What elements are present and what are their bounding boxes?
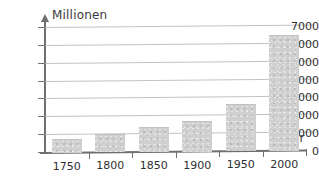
bar-1850 [139, 127, 169, 152]
x-axis-tick-mark [306, 149, 307, 156]
plot-area: Millionen Jahr 0100020003000400050006000… [0, 0, 319, 182]
y-axis-tick-mark [38, 81, 45, 82]
x-axis-tick-label: 2000 [261, 158, 307, 171]
y-axis-tick-label: 7000 [281, 20, 319, 33]
x-axis-tick-mark [89, 152, 90, 159]
x-axis-tick-label: 1950 [218, 158, 264, 171]
population-bar-chart: Millionen Jahr 0100020003000400050006000… [0, 0, 319, 182]
x-axis-tick-label: 1900 [174, 159, 220, 172]
bar-2000 [269, 35, 299, 151]
x-axis-tick-mark [263, 150, 264, 157]
x-axis-tick-mark [132, 151, 133, 158]
y-axis-arrow-icon [41, 14, 49, 22]
x-axis-tick-label: 1800 [87, 159, 133, 172]
y-axis-tick-mark [38, 27, 45, 28]
x-axis-tick-label: 1750 [44, 160, 90, 173]
y-axis-title: Millionen [52, 8, 107, 22]
bar-1800 [95, 134, 125, 152]
y-axis-tick-mark [38, 134, 45, 135]
bar-1750 [52, 139, 82, 153]
y-axis-tick-mark [38, 116, 45, 117]
x-axis-tick-mark [219, 150, 220, 157]
y-axis-tick-mark [38, 63, 45, 64]
y-axis-tick-mark [38, 152, 45, 153]
gridline [45, 24, 314, 28]
y-axis-tick-mark [38, 98, 45, 99]
x-axis-tick-label: 1850 [131, 159, 177, 172]
bar-1950 [226, 104, 256, 151]
y-axis-tick-mark [38, 45, 45, 46]
bar-1900 [182, 121, 212, 151]
x-axis-tick-mark [176, 151, 177, 158]
